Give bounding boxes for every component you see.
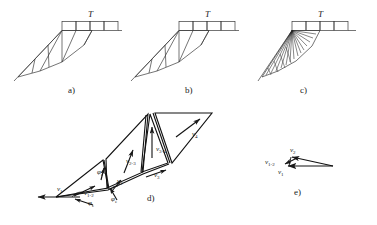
label-phi-e-3-sub: e (101, 172, 103, 177)
label-v2-e-sub: 2 (293, 150, 296, 155)
label-phi-e-2-sub: e (115, 199, 117, 204)
panel-d-sliver-3 (153, 113, 170, 163)
label-v4-d: v4 (192, 131, 198, 139)
label-v1-e: v1 (278, 169, 284, 177)
label-v2-d: v2 (117, 178, 123, 186)
caption-e: e) (294, 188, 301, 197)
label-phi-e-1: φe (88, 200, 94, 208)
panel-b-wedge-outline (135, 31, 209, 78)
label-phi-e-2: φe (111, 196, 117, 204)
panel-b-load-strip (179, 22, 235, 31)
panel-d (38, 113, 212, 205)
panel-d-block-3 (142, 114, 168, 172)
panel-c-hatch-fan (266, 31, 316, 76)
panel-b (131, 22, 239, 82)
load-label-t-b: T (205, 10, 210, 19)
label-v1-d-sub: 1 (60, 189, 63, 194)
panel-a (14, 22, 122, 82)
panel-c-load-strip (292, 22, 348, 31)
label-v3-d: v3 (154, 172, 160, 180)
label-v3-d-sub: 3 (157, 175, 160, 180)
panel-a-slip-lines (32, 31, 92, 74)
caption-d: d) (147, 194, 155, 203)
label-v4-d-sub: 4 (195, 134, 198, 139)
label-phi-e-1-sub: e (92, 203, 94, 208)
label-v1-e-sub: 1 (281, 172, 284, 177)
label-v1-2-e-sub: 1-2 (268, 162, 275, 167)
panel-e (285, 157, 333, 166)
panel-a-load-strip (62, 22, 118, 31)
label-phi-e-3: φe (97, 169, 103, 177)
label-v2-e: v2 (290, 147, 296, 155)
label-v1-2-e: v1-2 (265, 159, 275, 167)
caption-c: c) (300, 86, 307, 95)
label-v1-d: v1 (57, 186, 63, 194)
caption-a: a) (68, 86, 75, 95)
load-label-t-a: T (88, 10, 93, 19)
label-v1-2-d-sub: 1-2 (87, 193, 94, 198)
panel-a-wedge-outline (18, 31, 92, 78)
panel-d-block-4 (155, 113, 212, 163)
label-v3-4-d: v3-4 (156, 146, 166, 154)
label-v2-3-d-sub: 2-3 (129, 161, 136, 166)
load-label-t-c: T (318, 10, 323, 19)
panel-c (258, 22, 356, 82)
label-v2-3-d: v2-3 (126, 158, 136, 166)
caption-b: b) (185, 86, 193, 95)
panel-d-block-2 (106, 114, 148, 188)
label-v1-2-d: v1-2 (84, 190, 94, 198)
panel-b-slip-lines (149, 31, 209, 74)
label-v3-4-d-sub: 3-4 (159, 149, 166, 154)
panel-e-arrow-v2 (292, 157, 333, 166)
label-v2-d-sub: 2 (120, 181, 123, 186)
